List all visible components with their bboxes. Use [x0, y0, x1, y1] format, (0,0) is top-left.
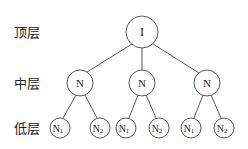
leaf-node: N2 [214, 118, 234, 138]
leaf-node: N1 [50, 118, 70, 138]
leaf-node: N1 [116, 118, 136, 138]
leaf-node: N2 [90, 118, 110, 138]
root-node: I [126, 16, 158, 48]
middle-node: N [67, 70, 93, 96]
middle-node: N [194, 70, 220, 96]
leaf-node: N2 [149, 118, 169, 138]
leaf-node: N1 [181, 118, 201, 138]
middle-node: N [129, 70, 155, 96]
svg-text:N: N [138, 77, 146, 89]
tree-diagram: 顶层 中层 低层 I N N N N1 N2 N1 N2 N1 N2 [0, 0, 248, 149]
svg-text:N: N [76, 77, 84, 89]
layer-label-top: 顶层 [14, 25, 40, 40]
svg-text:I: I [140, 25, 144, 39]
layer-label-bottom: 低层 [14, 121, 40, 136]
svg-text:N: N [203, 77, 211, 89]
layer-label-middle: 中层 [14, 76, 40, 91]
